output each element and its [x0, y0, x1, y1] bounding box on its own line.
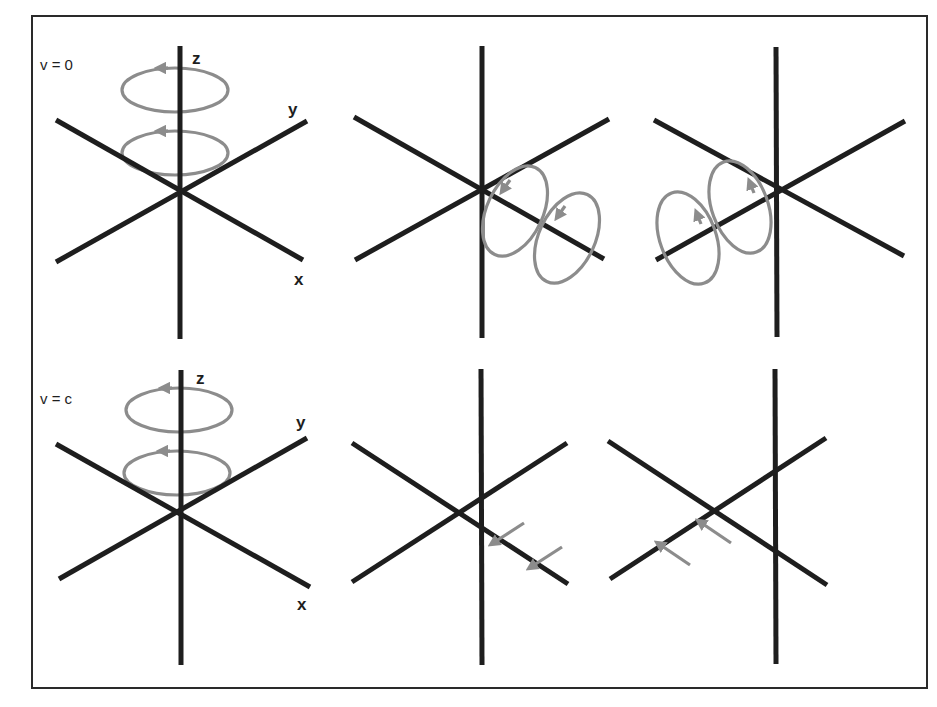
panel-row1-col3 — [645, 47, 905, 337]
loop-arrow-icon — [697, 214, 701, 224]
panel-row1-col2 — [354, 46, 613, 338]
panel-row2-col2 — [352, 369, 568, 665]
x-axis — [608, 441, 827, 585]
loop-arrow-icon — [503, 180, 510, 190]
field-arrow-near — [493, 523, 524, 543]
panel-row2-col3 — [608, 369, 827, 664]
panel-row1-col1: z y x v = 0 — [40, 46, 307, 339]
z-axis — [775, 369, 776, 664]
polarization-diagram: z y x v = 0 z y x v = c — [0, 0, 937, 707]
x-axis-label: x — [294, 270, 304, 289]
loop-arrow-icon — [750, 183, 754, 193]
z-axis-label: z — [196, 369, 205, 388]
field-arrow-near — [700, 522, 731, 543]
y-axis-label: y — [288, 100, 298, 119]
loop-arrow-icon — [558, 206, 565, 216]
z-axis — [481, 369, 482, 665]
x-axis-label: x — [297, 595, 307, 614]
row-label-v0: v = 0 — [40, 56, 73, 73]
field-arrow-far — [531, 547, 562, 567]
row-label-vc: v = c — [40, 390, 73, 407]
z-axis-label: z — [192, 49, 201, 68]
field-loop-upper — [122, 68, 228, 112]
y-axis-label: y — [296, 413, 306, 432]
field-loop-far — [645, 183, 730, 292]
field-arrow-far — [659, 544, 690, 565]
panel-row2-col1: z y x v = c — [40, 369, 310, 665]
y-axis — [610, 438, 826, 579]
